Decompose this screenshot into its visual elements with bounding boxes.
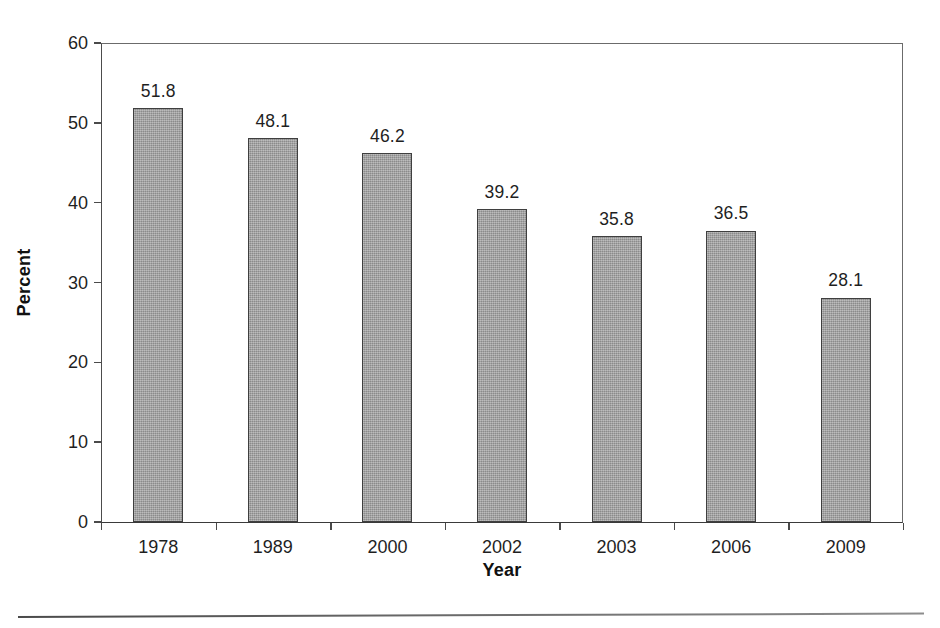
bar[interactable]	[477, 209, 527, 522]
bar-value-label: 51.8	[141, 83, 176, 101]
x-axis-label: 1989	[253, 536, 293, 558]
y-tick-mark	[94, 521, 101, 522]
y-tick-mark	[94, 42, 101, 43]
y-tick-mark	[94, 282, 101, 283]
bar-group: 46.2	[330, 43, 445, 522]
bar[interactable]	[821, 298, 871, 522]
bar-value-label: 46.2	[370, 128, 405, 146]
x-axis-ticks: 1978198920002002200320062009	[101, 523, 903, 563]
y-tick-label: 10	[68, 431, 88, 453]
y-tick-label: 60	[68, 32, 88, 54]
x-tick-mark	[788, 523, 789, 530]
x-tick-mark	[445, 523, 446, 530]
bars-layer: 51.848.146.239.235.836.528.1	[101, 43, 903, 522]
y-tick-mark	[94, 441, 101, 442]
bar-group: 48.1	[216, 43, 331, 522]
bar-group: 36.5	[674, 43, 789, 522]
bar-value-label: 39.2	[485, 184, 520, 202]
bar-group: 51.8	[101, 43, 216, 522]
y-tick-label: 20	[68, 351, 88, 373]
bar[interactable]	[362, 153, 412, 522]
bar-value-label: 28.1	[828, 272, 863, 290]
bar-group: 28.1	[788, 43, 903, 522]
bar-chart-figure: 51.848.146.239.235.836.528.1 01020304050…	[0, 0, 940, 628]
y-tick-mark	[94, 202, 101, 203]
y-tick-label: 30	[68, 272, 88, 294]
bar[interactable]	[133, 108, 183, 522]
bar-group: 35.8	[559, 43, 674, 522]
x-axis-label: 2006	[711, 536, 751, 558]
footer-divider	[18, 613, 924, 618]
bar-group: 39.2	[445, 43, 560, 522]
bar[interactable]	[248, 138, 298, 522]
y-tick-label: 50	[68, 112, 88, 134]
y-axis-title: Percent	[14, 228, 35, 338]
y-tick-label: 0	[78, 511, 88, 533]
x-axis-label: 2003	[597, 536, 637, 558]
y-tick-mark	[94, 122, 101, 123]
x-tick-mark	[674, 523, 675, 530]
x-axis-label: 2009	[826, 536, 866, 558]
x-axis-label: 2002	[482, 536, 522, 558]
y-tick-label: 40	[68, 192, 88, 214]
bar[interactable]	[706, 231, 756, 522]
x-axis-label: 1978	[138, 536, 178, 558]
x-tick-mark	[216, 523, 217, 530]
x-tick-mark	[330, 523, 331, 530]
bar-value-label: 35.8	[599, 211, 634, 229]
x-tick-mark	[903, 523, 904, 530]
x-axis-title: Year	[101, 560, 903, 581]
x-tick-mark	[559, 523, 560, 530]
bar-value-label: 48.1	[255, 113, 290, 131]
y-tick-mark	[94, 362, 101, 363]
bar-value-label: 36.5	[714, 205, 749, 223]
x-tick-mark	[101, 523, 102, 530]
bar[interactable]	[592, 236, 642, 522]
x-axis-label: 2000	[367, 536, 407, 558]
